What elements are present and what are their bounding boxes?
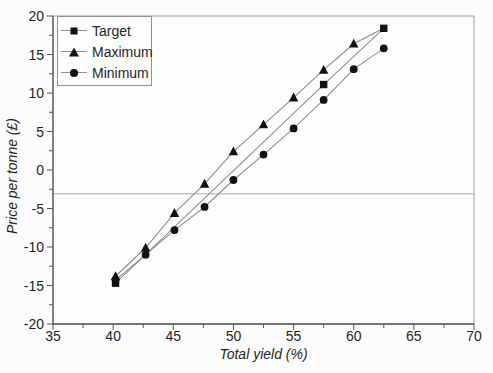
target-marker-square (380, 25, 387, 32)
legend-box: Target Maximum Minimum (57, 16, 152, 86)
y-tick-label: -5 (32, 201, 45, 217)
chart-figure: 354045505560657020151050-5-10-15-20 Tota… (0, 0, 493, 373)
minimum-marker-circle (380, 44, 388, 52)
y-tick-label: 10 (28, 85, 44, 101)
minimum-marker-circle (201, 203, 209, 211)
legend-marker-target (60, 25, 88, 37)
y-tick-label: -20 (24, 316, 44, 332)
legend-label-target: Target (92, 23, 131, 39)
minimum-marker-circle (320, 96, 328, 104)
y-axis-title: Price per tonne (£) (4, 118, 20, 234)
x-tick-label: 55 (286, 328, 302, 344)
target-marker-square (320, 81, 327, 88)
x-axis-title: Total yield (%) (219, 346, 307, 362)
legend-item-minimum: Minimum (60, 62, 151, 83)
y-tick-label: 15 (28, 47, 44, 63)
target-marker-square (112, 279, 119, 286)
y-tick-label: 5 (36, 124, 44, 140)
triangle-marker-icon (69, 47, 79, 56)
x-tick-label: 45 (165, 328, 181, 344)
x-tick-label: 60 (346, 328, 362, 344)
legend-marker-maximum (60, 46, 88, 58)
y-tick-label: 20 (28, 8, 44, 24)
x-tick-label: 40 (105, 328, 121, 344)
x-tick-label: 35 (45, 328, 61, 344)
y-tick-label: -10 (24, 239, 44, 255)
legend-marker-minimum (60, 67, 88, 79)
legend-item-maximum: Maximum (60, 41, 151, 62)
legend-label-maximum: Maximum (92, 44, 153, 60)
minimum-marker-circle (290, 125, 298, 133)
x-tick-label: 65 (406, 328, 422, 344)
x-tick-label: 50 (226, 328, 242, 344)
circle-marker-icon (70, 69, 78, 77)
legend-label-minimum: Minimum (92, 65, 149, 81)
square-marker-icon (71, 27, 78, 34)
minimum-marker-circle (171, 226, 179, 234)
minimum-marker-circle (350, 65, 358, 73)
x-tick-label: 70 (466, 328, 482, 344)
minimum-marker-circle (142, 251, 150, 259)
minimum-marker-circle (260, 151, 268, 159)
y-tick-label: -15 (24, 278, 44, 294)
y-tick-label: 0 (36, 162, 44, 178)
legend-item-target: Target (60, 20, 151, 41)
minimum-marker-circle (230, 176, 238, 184)
